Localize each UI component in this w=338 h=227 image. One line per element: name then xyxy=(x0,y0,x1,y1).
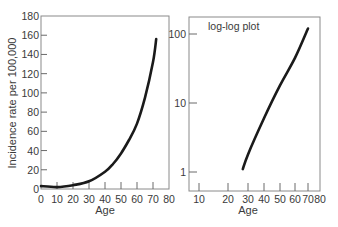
x-tick-label: 50 xyxy=(274,193,286,205)
y-tick-label: 80 xyxy=(27,106,39,118)
x-tick-label: 20 xyxy=(67,193,79,205)
log-log-chart: log-log plot 110100 1020304050607080 Age xyxy=(168,17,326,216)
x-tick-label: 80 xyxy=(314,193,326,205)
chart-canvas: 020406080100120140160180 010203040506070… xyxy=(0,0,338,227)
incidence-curve-log xyxy=(243,29,308,170)
y-tick-label: 100 xyxy=(21,87,39,99)
incidence-curve-linear xyxy=(41,39,156,187)
x-tick-label: 60 xyxy=(289,193,301,205)
y-tick-label: 10 xyxy=(174,97,186,109)
y-tick-label: 120 xyxy=(21,68,39,80)
y-tick-label: 180 xyxy=(21,10,39,22)
linear-x-axis-title: Age xyxy=(95,204,115,216)
linear-plot-frame xyxy=(41,16,169,189)
linear-chart: 020406080100120140160180 010203040506070… xyxy=(6,10,175,216)
y-tick-label: 160 xyxy=(21,29,39,41)
x-tick-label: 30 xyxy=(83,193,95,205)
log-y-axis: 110100 xyxy=(168,28,197,178)
x-tick-label: 50 xyxy=(115,193,127,205)
linear-x-axis: 01020304050607080 xyxy=(38,182,175,205)
x-tick-label: 10 xyxy=(51,193,63,205)
y-tick-label: 40 xyxy=(27,145,39,157)
x-tick-label: 60 xyxy=(131,193,143,205)
x-tick-label: 20 xyxy=(222,193,234,205)
linear-y-axis: 020406080100120140160180 xyxy=(21,10,47,195)
log-log-plot-annotation: log-log plot xyxy=(208,20,259,32)
x-tick-label: 70 xyxy=(147,193,159,205)
x-tick-label: 10 xyxy=(193,193,205,205)
x-tick-label: 80 xyxy=(163,193,175,205)
y-tick-label: 1 xyxy=(180,166,186,178)
x-tick-label: 70 xyxy=(302,193,314,205)
linear-y-axis-title: Incidence rate per 100,000 xyxy=(6,38,18,169)
y-tick-label: 60 xyxy=(27,125,39,137)
log-x-axis: 1020304050607080 xyxy=(193,183,326,205)
y-tick-label: 100 xyxy=(168,28,186,40)
y-tick-label: 140 xyxy=(21,48,39,60)
x-tick-label: 0 xyxy=(38,193,44,205)
y-tick-label: 20 xyxy=(27,164,39,176)
x-tick-label: 40 xyxy=(258,193,270,205)
log-x-axis-title: Age xyxy=(238,204,258,216)
